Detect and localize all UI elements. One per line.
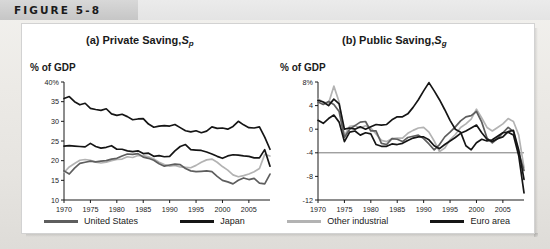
chart-title-private-saving: (a) Private Saving,Sp xyxy=(86,34,194,46)
svg-text:0: 0 xyxy=(309,125,313,134)
legend-item-japan[interactable]: Japan xyxy=(180,216,245,226)
legend: United States Japan Other industrial Eur… xyxy=(22,212,534,230)
panel-shadow-bottom xyxy=(26,233,538,237)
chart-title-private-subscript: p xyxy=(189,39,194,48)
figure-header-strip xyxy=(138,0,550,20)
svg-text:-4: -4 xyxy=(307,148,313,157)
plot-area-private-saving: 10152025303540%1970197519801985199019952… xyxy=(45,78,270,214)
svg-text:8%: 8% xyxy=(303,78,314,87)
legend-item-united-states[interactable]: United States xyxy=(44,216,138,226)
svg-text:25: 25 xyxy=(51,137,59,146)
svg-text:10: 10 xyxy=(51,196,59,205)
chart-title-public-text: (b) Public Saving, xyxy=(342,34,434,46)
svg-text:30: 30 xyxy=(51,117,59,126)
svg-text:-12: -12 xyxy=(303,196,313,205)
legend-label-other-industrial: Other industrial xyxy=(327,216,388,226)
legend-swatch-united-states xyxy=(44,220,78,223)
axis-caption-public-saving: % of GDP xyxy=(280,62,326,73)
chart-title-public-symbol: S xyxy=(434,34,441,46)
svg-text:-8: -8 xyxy=(307,172,313,181)
legend-item-euro-area[interactable]: Euro area xyxy=(430,216,510,226)
figure-root: FIGURE 5-8 (a) Private Saving,Sp % of GD… xyxy=(0,0,550,249)
svg-text:20: 20 xyxy=(51,156,59,165)
chart-title-private-text: (a) Private Saving, xyxy=(86,34,181,46)
legend-label-united-states: United States xyxy=(84,216,138,226)
legend-swatch-japan xyxy=(180,220,214,223)
chart-public-saving: -12-8-4048%19701975198019851990199520002… xyxy=(272,76,534,218)
chart-private-saving: 10152025303540%1970197519801985199019952… xyxy=(22,76,278,218)
chart-title-public-subscript: g xyxy=(442,39,447,48)
legend-swatch-euro-area xyxy=(430,220,464,223)
chart-title-private-symbol: S xyxy=(181,34,188,46)
svg-text:15: 15 xyxy=(51,176,59,185)
legend-label-euro-area: Euro area xyxy=(470,216,510,226)
figure-panel: (a) Private Saving,Sp % of GDP 101520253… xyxy=(22,24,534,233)
plot-area-public-saving: -12-8-4048%19701975198019851990199520002… xyxy=(303,78,524,214)
svg-text:40%: 40% xyxy=(45,78,60,87)
panel-shadow-right xyxy=(534,28,538,237)
svg-text:35: 35 xyxy=(51,97,59,106)
axis-caption-private-saving: % of GDP xyxy=(30,62,76,73)
figure-label: FIGURE 5-8 xyxy=(14,4,101,16)
figure-header-band: FIGURE 5-8 xyxy=(0,0,138,20)
legend-swatch-other-industrial xyxy=(287,220,321,223)
chart-title-public-saving: (b) Public Saving,Sg xyxy=(342,34,447,46)
svg-text:4: 4 xyxy=(309,101,313,110)
legend-label-japan: Japan xyxy=(220,216,245,226)
legend-item-other-industrial[interactable]: Other industrial xyxy=(287,216,388,226)
